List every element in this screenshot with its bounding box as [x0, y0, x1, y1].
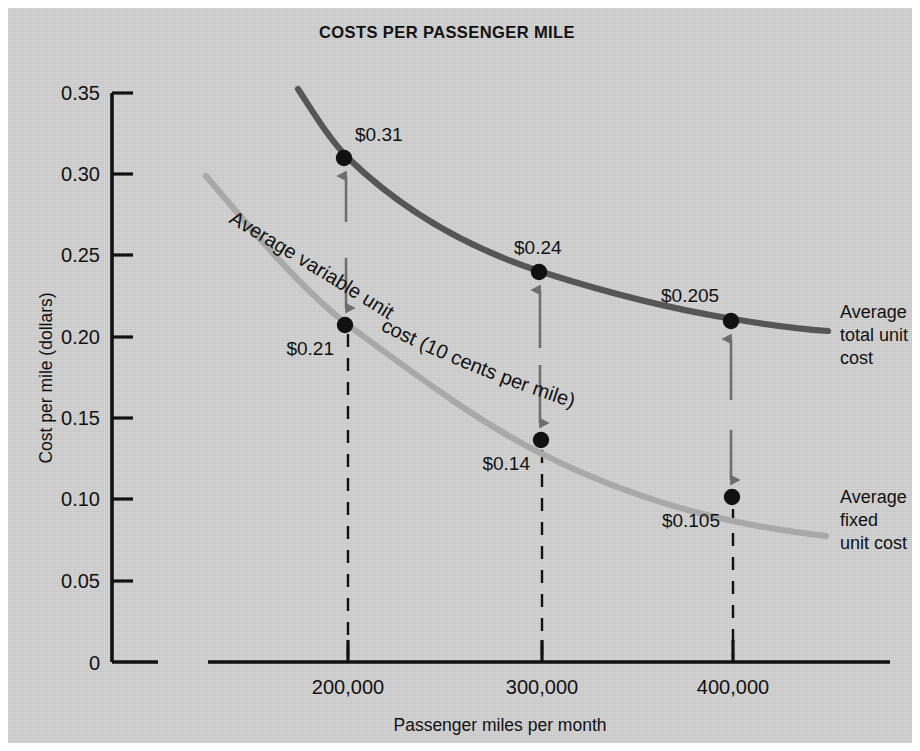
- annotation-average-variable-unit-cost-part1: Average variable unit: [226, 207, 398, 324]
- y-tick-label-0.10: 0.10: [61, 488, 100, 510]
- x-axis-title: Passenger miles per month: [393, 715, 606, 735]
- y-tick-label-0.25: 0.25: [61, 244, 100, 266]
- value-label-fixed-400000: $0.105: [662, 510, 720, 531]
- x-tick-label-300000: 300,000: [506, 676, 578, 698]
- legend-fixed-line-1: Average: [840, 487, 907, 507]
- value-label-total-400000: $0.205: [661, 285, 719, 306]
- legend-fixed-line-2: fixed: [840, 510, 878, 530]
- value-label-fixed-200000: $0.21: [286, 338, 334, 359]
- x-tick-label-400000: 400,000: [697, 676, 769, 698]
- legend-total-line-2: total unit: [840, 325, 908, 345]
- y-tick-label-0.35: 0.35: [61, 82, 100, 104]
- value-label-total-300000: $0.24: [514, 237, 562, 258]
- point-fixed-200000: [337, 317, 353, 333]
- point-fixed-400000: [724, 489, 740, 505]
- y-tick-label-0.20: 0.20: [61, 326, 100, 348]
- legend-fixed-line-3: unit cost: [840, 533, 907, 553]
- chart-title: COSTS PER PASSENGER MILE: [319, 23, 575, 41]
- annotation-textpath-a: Average variable unit: [226, 207, 398, 324]
- figure-canvas: COSTS PER PASSENGER MILE 0.35 0.30 0.25 …: [0, 0, 920, 751]
- legend-average-fixed-unit-cost: Average fixed unit cost: [840, 487, 907, 553]
- legend-average-total-unit-cost: Average total unit cost: [840, 302, 908, 368]
- legend-total-line-1: Average: [840, 302, 907, 322]
- y-axis-title: Cost per mile (dollars): [36, 292, 56, 463]
- legend-total-line-3: cost: [840, 348, 873, 368]
- point-total-400000: [723, 313, 739, 329]
- y-tick-label-0.30: 0.30: [61, 163, 100, 185]
- point-total-300000: [531, 264, 547, 280]
- y-axis: 0.35 0.30 0.25 0.20 0.15 0.10 0.05 0 Cos…: [36, 82, 158, 674]
- y-tick-label-0: 0: [89, 652, 100, 674]
- x-axis: 200,000 300,000 400,000 Passenger miles …: [208, 640, 890, 735]
- costs-per-passenger-mile-chart: COSTS PER PASSENGER MILE 0.35 0.30 0.25 …: [0, 0, 920, 751]
- point-total-200000: [336, 150, 352, 166]
- annotation-average-variable-unit-cost-part2: cost (10 cents per mile): [378, 314, 578, 412]
- point-fixed-300000: [533, 432, 549, 448]
- value-label-total-200000: $0.31: [355, 124, 403, 145]
- value-label-fixed-300000: $0.14: [482, 453, 530, 474]
- y-tick-label-0.15: 0.15: [61, 407, 100, 429]
- y-tick-label-0.05: 0.05: [61, 570, 100, 592]
- annotation-textpath-b: cost (10 cents per mile): [378, 314, 578, 412]
- x-tick-label-200000: 200,000: [312, 676, 384, 698]
- data-points-fixed: [337, 317, 740, 505]
